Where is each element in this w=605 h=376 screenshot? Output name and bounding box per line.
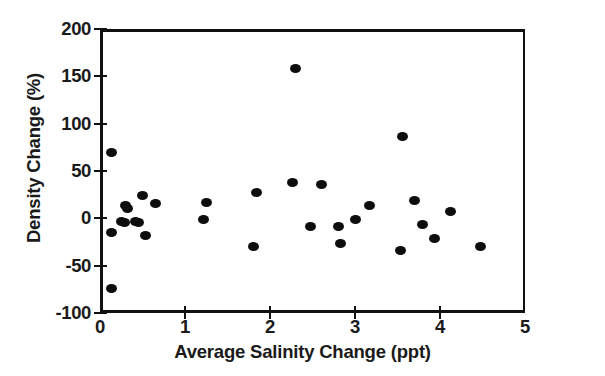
y-tick-mark <box>94 28 107 30</box>
x-tick-mark <box>269 306 271 319</box>
data-point <box>201 198 212 207</box>
x-tick-label: 1 <box>165 318 205 337</box>
data-point <box>397 132 408 141</box>
data-point <box>316 180 327 189</box>
data-point <box>140 231 151 240</box>
plot-frame <box>100 29 525 313</box>
data-point <box>335 239 346 248</box>
data-point <box>106 148 117 157</box>
data-point <box>198 215 209 224</box>
data-point <box>445 207 456 216</box>
x-tick-label: 2 <box>250 318 290 337</box>
data-point <box>251 188 262 197</box>
data-point <box>417 220 428 229</box>
x-tick-label: 3 <box>335 318 375 337</box>
data-point <box>290 64 301 73</box>
x-tick-mark <box>184 306 186 319</box>
y-tick-mark <box>94 75 107 77</box>
data-point <box>395 246 406 255</box>
data-point <box>287 178 298 187</box>
x-axis-title: Average Salinity Change (ppt) <box>0 341 605 363</box>
data-point <box>333 222 344 231</box>
data-point <box>119 218 130 227</box>
data-point <box>364 201 375 210</box>
y-tick-mark <box>94 312 107 314</box>
y-tick-mark <box>94 217 107 219</box>
data-point <box>429 234 440 243</box>
y-tick-mark <box>94 170 107 172</box>
plot-area <box>100 29 525 313</box>
x-tick-label: 4 <box>420 318 460 337</box>
data-point <box>106 284 117 293</box>
x-tick-label: 5 <box>505 318 545 337</box>
data-point <box>122 204 133 213</box>
data-point <box>137 191 148 200</box>
data-point <box>409 196 420 205</box>
data-point <box>106 228 117 237</box>
data-point <box>248 242 259 251</box>
data-point <box>475 242 486 251</box>
x-tick-mark <box>354 306 356 319</box>
x-tick-mark <box>439 306 441 319</box>
y-tick-mark <box>94 265 107 267</box>
data-point <box>305 222 316 231</box>
data-point <box>150 199 161 208</box>
x-tick-label: 0 <box>80 318 120 337</box>
y-tick-mark <box>94 123 107 125</box>
scatter-chart-figure: Density Change (%) -100-50050100150200 0… <box>0 0 605 376</box>
data-point <box>350 215 361 224</box>
data-point <box>133 218 144 227</box>
